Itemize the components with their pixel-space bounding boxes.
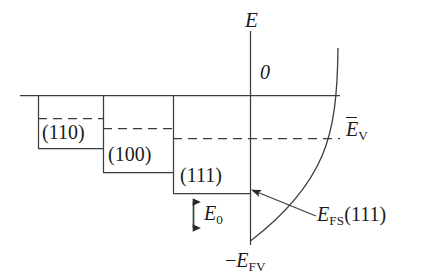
ev-bar-label: EV — [346, 119, 368, 142]
step-110-label: (110) — [42, 122, 85, 142]
efv-symbol: E — [236, 249, 248, 271]
efv-subscript: FV — [249, 259, 266, 274]
ev-bar-subscript: V — [358, 128, 368, 143]
band-diagram-figure: E 0 (110) (100) (111) E0 EV EFS(111) −EF… — [0, 0, 423, 280]
zero-level-label: 0 — [260, 62, 270, 82]
efv-label: −EFV — [225, 250, 266, 273]
step-100-label: (100) — [108, 144, 151, 164]
e0-label: E0 — [204, 203, 223, 226]
e0-subscript: 0 — [216, 212, 223, 227]
efv-minus-sign: − — [225, 249, 236, 271]
energy-axis-label: E — [245, 10, 258, 31]
efs-subscript: FS — [329, 213, 344, 228]
efs-argument: (111) — [344, 203, 386, 225]
efs-symbol: E — [317, 203, 329, 225]
step-111-label: (111) — [180, 165, 222, 185]
e0-symbol: E — [204, 202, 216, 224]
ev-bar-symbol: E — [346, 119, 358, 139]
efs-label: EFS(111) — [317, 204, 386, 227]
